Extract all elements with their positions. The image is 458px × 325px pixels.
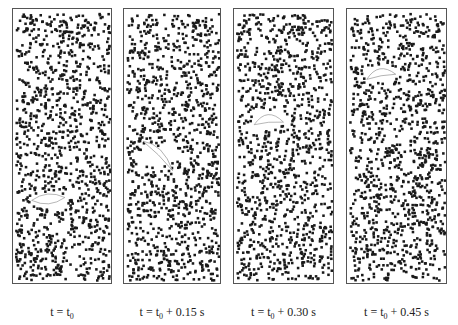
particle-field (347, 9, 446, 283)
particle-field (124, 9, 220, 283)
particle-field (13, 9, 111, 283)
gas-bubble (253, 113, 283, 124)
particle-field (234, 9, 333, 283)
snapshot-panel-t0-plus-015 (123, 8, 221, 284)
caption-t0-plus-015: t = t0 + 0.15 s (140, 305, 205, 321)
caption-t0: t = t0 (50, 305, 73, 321)
caption-t0-plus-045: t = t0 + 0.45 s (364, 305, 429, 321)
snapshot-panel-t0-plus-030 (233, 8, 334, 284)
snapshot-panel-t0 (12, 8, 112, 284)
caption-t0-plus-030: t = t0 + 0.30 s (251, 305, 316, 321)
gas-bubble (365, 66, 395, 79)
snapshot-panel-t0-plus-045 (346, 8, 447, 284)
